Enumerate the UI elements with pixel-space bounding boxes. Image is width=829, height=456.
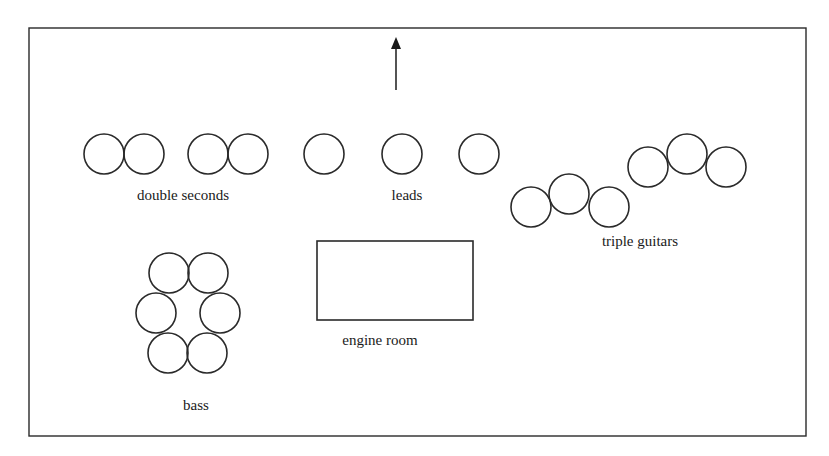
drum-triple-guitars xyxy=(589,187,629,227)
label-double-seconds: double seconds xyxy=(137,187,229,203)
drum-double-seconds xyxy=(228,134,268,174)
drum-bass xyxy=(187,333,227,373)
engine-room: engine room xyxy=(317,241,473,348)
section-triple-guitars: triple guitars xyxy=(511,134,746,249)
drum-triple-guitars xyxy=(667,134,707,174)
drum-leads xyxy=(382,134,422,174)
drum-triple-guitars xyxy=(549,174,589,214)
drum-double-seconds xyxy=(188,134,228,174)
section-leads: leads xyxy=(304,134,499,203)
drum-leads xyxy=(304,134,344,174)
drum-triple-guitars xyxy=(511,187,551,227)
engine-room-label: engine room xyxy=(342,332,418,348)
engine-room-box xyxy=(317,241,473,320)
label-leads: leads xyxy=(392,187,423,203)
drum-sections: double secondsleadstriple guitarsbass xyxy=(84,134,746,413)
drum-bass xyxy=(136,293,176,333)
arrow-head-icon xyxy=(391,37,401,49)
drum-leads xyxy=(459,134,499,174)
drum-double-seconds xyxy=(84,134,124,174)
drum-bass xyxy=(188,253,228,293)
front-direction-arrow-icon xyxy=(391,37,401,90)
drum-bass xyxy=(149,253,189,293)
drum-bass xyxy=(148,333,188,373)
section-bass: bass xyxy=(136,253,240,413)
drum-bass xyxy=(200,293,240,333)
drum-triple-guitars xyxy=(706,147,746,187)
drum-triple-guitars xyxy=(628,147,668,187)
label-triple-guitars: triple guitars xyxy=(602,233,678,249)
label-bass: bass xyxy=(183,397,209,413)
section-double-seconds: double seconds xyxy=(84,134,268,203)
stage-frame xyxy=(29,28,806,436)
stage-layout-diagram: double secondsleadstriple guitarsbass en… xyxy=(0,0,829,456)
drum-double-seconds xyxy=(124,134,164,174)
